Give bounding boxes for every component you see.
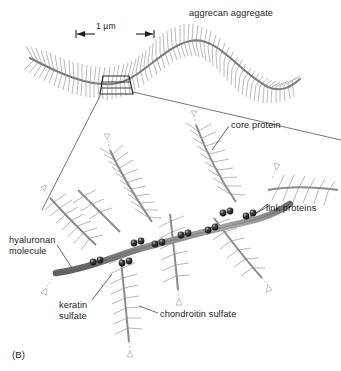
label-hyaluronan-molecule: hyaluronan molecule (9, 235, 55, 257)
scale-bar-label: 1 µm (96, 21, 116, 32)
label-core-protein: core protein (231, 120, 281, 131)
figure-title: aggrecan aggregate (189, 8, 273, 19)
label-keratin-sulfate: keratin sulfate (59, 300, 87, 322)
panel-letter: (B) (12, 349, 25, 360)
label-chondroitin-sulfate: chondroitin sulfate (160, 309, 236, 320)
label-link-proteins: link proteins (266, 203, 316, 214)
